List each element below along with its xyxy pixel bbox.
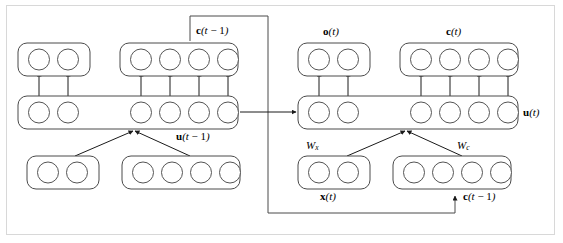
group-right-output-c xyxy=(400,43,519,76)
label-o-t: o(t) xyxy=(323,26,339,37)
group-left-input-a xyxy=(27,156,99,189)
label-u-prev: u(t − 1) xyxy=(176,131,210,142)
label-x-t: x(t) xyxy=(320,191,336,202)
group-right-hidden-u xyxy=(298,96,519,129)
group-left-input-b xyxy=(122,156,241,189)
group-left-output-c-prev xyxy=(120,43,239,76)
label-c-prev-top: c(t − 1) xyxy=(196,25,229,36)
group-left-hidden-u-prev xyxy=(18,96,239,129)
label-u-t: u(t) xyxy=(523,107,540,118)
group-right-input-c-prev xyxy=(393,156,512,189)
node-groups-layer xyxy=(0,0,563,243)
label-c-prev-bottom: c(t − 1) xyxy=(463,191,496,202)
group-left-output-small xyxy=(18,43,90,76)
label-weight-wc: Wc xyxy=(457,140,470,152)
group-right-output-o xyxy=(298,43,370,76)
group-right-input-x xyxy=(298,156,370,189)
label-weight-wx: Wx xyxy=(306,140,319,152)
label-c-t: c(t) xyxy=(446,26,461,37)
figure-root: c(t − 1) u(t − 1) o(t) c(t) u(t) Wx Wc x… xyxy=(0,0,563,243)
